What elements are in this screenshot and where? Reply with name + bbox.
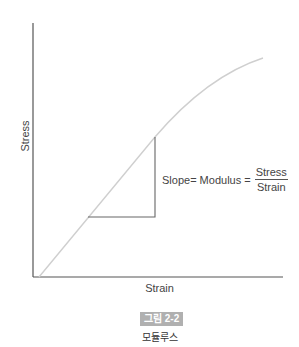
figure-caption: 모듈루스 <box>0 329 299 344</box>
slope-formula: Slope= Modulus = Stress Strain <box>162 166 288 193</box>
fraction-denominator: Strain <box>257 180 286 193</box>
formula-prefix: Slope= Modulus = <box>162 174 251 186</box>
x-axis-label: Strain <box>0 282 299 294</box>
fraction-numerator: Stress <box>255 166 288 180</box>
y-axis-label: Stress <box>19 116 31 156</box>
figure-number-badge: 그림 2-2 <box>140 312 183 326</box>
fraction: Stress Strain <box>255 166 288 193</box>
